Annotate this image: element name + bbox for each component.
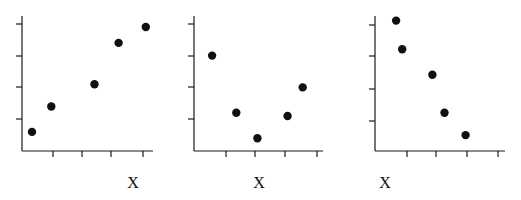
axes [369,16,505,157]
data-point [253,134,261,142]
scatter-plots-figure: X X X [0,0,521,200]
data-point [47,102,55,110]
scatter-panel-2: X [188,16,323,191]
data-point [398,45,406,53]
scatter-panel-1: X [16,16,153,191]
data-point [90,80,98,88]
data-point [114,39,122,47]
data-point [428,71,436,79]
data-points [208,51,307,142]
data-point [208,51,216,59]
x-axis-label: X [253,174,265,191]
data-points [28,23,150,136]
data-point [28,128,36,136]
data-point [392,16,400,24]
x-axis-label: X [379,174,391,191]
data-point [142,23,150,31]
data-point [232,109,240,117]
axes [16,16,153,157]
x-axis-label: X [127,174,139,191]
data-point [283,112,291,120]
data-point [461,131,469,139]
data-points [392,16,470,139]
data-point [440,109,448,117]
scatter-panel-3: X [369,16,505,191]
data-point [299,83,307,91]
